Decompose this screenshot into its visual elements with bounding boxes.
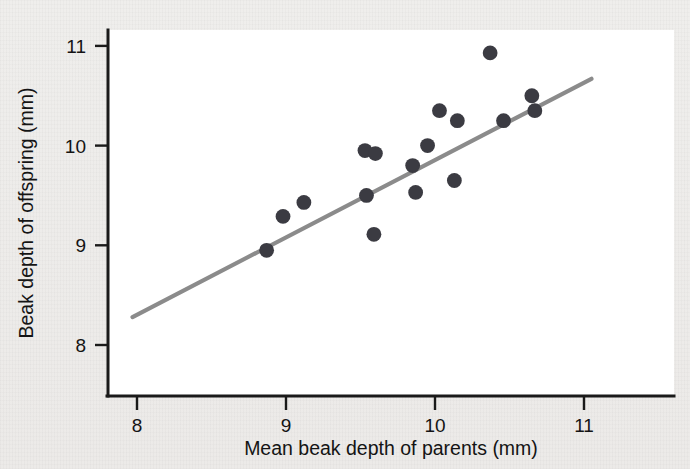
data-point-9	[420, 138, 435, 153]
x-tick-label-9: 9	[281, 415, 292, 436]
scatter-plot-figure: 891011 891011 Mean beak depth of parents…	[0, 0, 690, 469]
x-axis-title: Mean beak depth of parents (mm)	[244, 437, 538, 459]
y-tick-label-8: 8	[75, 335, 86, 356]
y-tick-label-10: 10	[65, 136, 86, 157]
y-axis-title: Beak depth of offspring (mm)	[15, 87, 37, 338]
data-point-3	[359, 188, 374, 203]
data-point-5	[368, 146, 383, 161]
x-tick-label-10: 10	[424, 415, 445, 436]
data-point-6	[367, 227, 382, 242]
y-axis-ticks	[95, 46, 108, 345]
data-point-1	[276, 209, 291, 224]
data-point-10	[432, 103, 447, 118]
plot-area-background	[108, 30, 674, 396]
x-axis-tick-labels: 891011	[132, 415, 594, 436]
data-point-7	[408, 185, 423, 200]
data-point-12	[447, 173, 462, 188]
data-point-14	[496, 113, 511, 128]
x-tick-label-11: 11	[574, 415, 594, 436]
y-tick-label-11: 11	[66, 36, 86, 57]
data-point-11	[450, 113, 465, 128]
data-point-16	[527, 103, 542, 118]
y-tick-label-9: 9	[75, 235, 86, 256]
data-point-0	[259, 243, 274, 258]
data-point-13	[483, 45, 498, 60]
data-point-15	[524, 88, 539, 103]
x-tick-label-8: 8	[132, 415, 143, 436]
data-point-2	[296, 195, 311, 210]
data-point-8	[405, 158, 420, 173]
y-axis-tick-labels: 891011	[65, 36, 86, 356]
x-axis-ticks	[137, 396, 584, 410]
chart-canvas: 891011 891011 Mean beak depth of parents…	[0, 0, 690, 469]
